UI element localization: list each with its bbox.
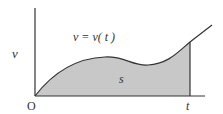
t-tick-label: t [186,99,190,113]
area-region [35,42,190,96]
curve-equation-label: v = v( t ) [73,30,115,44]
velocity-time-diagram: v O t v = v( t ) s [0,0,223,114]
y-axis-label: v [12,46,18,61]
area-label: s [119,72,124,86]
origin-label: O [27,99,36,113]
